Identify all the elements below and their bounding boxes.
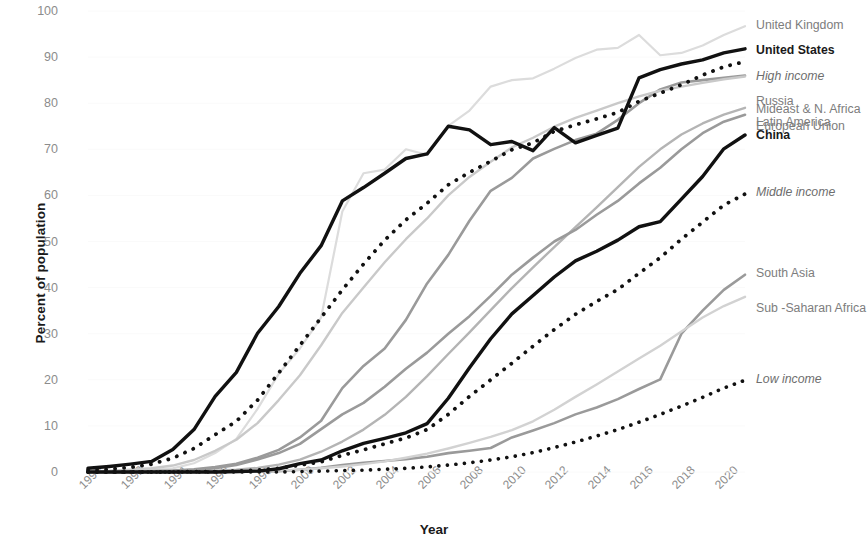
y-tick-label: 100 — [24, 4, 58, 18]
series-label: Sub -Saharan Africa — [756, 302, 866, 315]
series-line — [88, 26, 745, 471]
series-line — [88, 275, 745, 472]
y-axis-tick-labels: 0102030405060708090100 — [14, 0, 58, 545]
series-label: South Asia — [756, 267, 815, 280]
series-line — [88, 49, 745, 469]
y-tick-label: 50 — [24, 235, 58, 249]
series-label: United Kingdom — [756, 18, 844, 31]
line-chart: Percent of population Year 0102030405060… — [0, 0, 868, 545]
y-tick-label: 30 — [24, 327, 58, 341]
series-label: Low income — [756, 373, 822, 386]
series-label: Mideast & N. Africa — [756, 103, 861, 116]
y-tick-label: 80 — [24, 96, 58, 110]
series-label: China — [756, 129, 790, 142]
series-label: United States — [756, 43, 835, 56]
series-labels: United KingdomUnited StatesHigh incomeRu… — [756, 0, 868, 545]
x-axis-tick-labels: 1990199219941996199820002002200420062008… — [0, 482, 868, 542]
y-tick-label: 90 — [24, 50, 58, 64]
series-line — [88, 76, 745, 471]
series-line — [88, 194, 745, 472]
series-label: High income — [756, 69, 824, 82]
series-line — [88, 76, 745, 472]
y-tick-label: 40 — [24, 281, 58, 295]
series-label: Latin America — [756, 116, 831, 129]
y-tick-label: 70 — [24, 142, 58, 156]
y-tick-label: 60 — [24, 188, 58, 202]
series-line — [88, 108, 745, 472]
series-label: Middle income — [756, 186, 835, 199]
y-tick-label: 0 — [24, 465, 58, 479]
series-line — [88, 62, 745, 470]
plot-area — [88, 11, 745, 472]
y-tick-label: 20 — [24, 373, 58, 387]
y-tick-label: 10 — [24, 419, 58, 433]
series-canvas — [88, 11, 745, 472]
